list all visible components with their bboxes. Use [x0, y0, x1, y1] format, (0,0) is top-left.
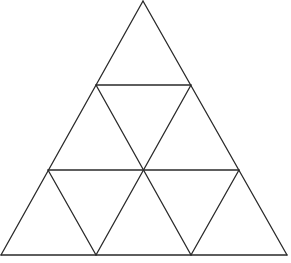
inner-diag-3 — [48, 170, 96, 255]
triangle-diagram — [0, 0, 291, 263]
outer-left-edge — [1, 1, 143, 255]
triangle-grid — [0, 0, 291, 263]
outer-right-edge — [143, 1, 287, 255]
inner-diag-4 — [191, 170, 239, 255]
